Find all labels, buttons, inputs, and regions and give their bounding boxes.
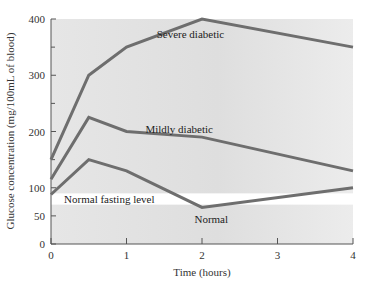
- x-tick-label: 1: [124, 249, 130, 261]
- y-tick-label: 100: [29, 182, 46, 194]
- series-label-normal: Normal: [194, 213, 228, 225]
- y-tick-label: 0: [40, 238, 46, 250]
- y-axis-title: Glucose concentration (mg/100mL of blood…: [4, 32, 17, 229]
- glucose-chart: 050100200300400 01234 Severe diabeticMil…: [0, 0, 369, 289]
- y-tick-label: 300: [29, 69, 46, 81]
- series-label-mildly-diabetic: Mildly diabetic: [145, 123, 213, 135]
- y-tick-label: 50: [34, 210, 46, 222]
- series-label-severe-diabetic: Severe diabetic: [157, 28, 225, 40]
- x-tick-label: 3: [275, 249, 281, 261]
- x-axis-title: Time (hours): [173, 266, 231, 279]
- x-tick-label: 2: [199, 249, 205, 261]
- y-tick-label: 400: [29, 13, 46, 25]
- y-tick-label: 200: [29, 126, 46, 138]
- x-tick-label: 0: [48, 249, 54, 261]
- x-tick-label: 4: [350, 249, 356, 261]
- normal-fasting-level-label: Normal fasting level: [64, 193, 154, 205]
